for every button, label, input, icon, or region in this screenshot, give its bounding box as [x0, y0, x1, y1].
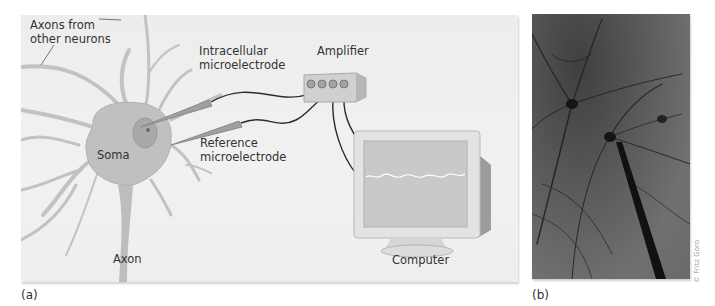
- panel-a-diagram: Axons from other neurons Intracellular m…: [21, 15, 518, 282]
- photo-credit: © Fritz Goro: [693, 240, 701, 283]
- computer-monitor: [354, 131, 491, 257]
- neuron-recording-illustration: [21, 15, 518, 282]
- panel-b-label: (b): [532, 288, 549, 302]
- label-intracellular-2: microelectrode: [199, 58, 285, 72]
- soma-shape: [86, 102, 171, 185]
- label-amplifier: Amplifier: [317, 44, 369, 58]
- microelectrode-shape: [616, 142, 666, 279]
- neuron-micrograph: [532, 14, 690, 279]
- label-axon: Axon: [113, 252, 142, 266]
- label-reference-1: Reference: [200, 136, 258, 150]
- label-reference-2: microelectrode: [200, 150, 286, 164]
- label-computer: Computer: [392, 253, 449, 267]
- label-axons-from-other-neurons-2: other neurons: [30, 32, 111, 46]
- axon-shape: [118, 185, 133, 282]
- amplifier-device: [304, 73, 366, 102]
- panel-b-photo: [532, 14, 690, 279]
- panel-a-label: (a): [21, 288, 38, 302]
- label-intracellular-1: Intracellular: [199, 44, 268, 58]
- label-soma: Soma: [97, 148, 130, 162]
- label-axons-from-other-neurons-1: Axons from: [30, 18, 95, 32]
